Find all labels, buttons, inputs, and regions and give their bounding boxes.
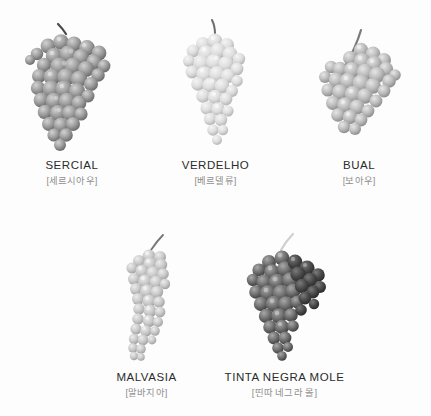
grape-cluster-tinta-negra-mole bbox=[235, 232, 335, 372]
variety-row-bottom: MALVASIA [말바지아] bbox=[0, 212, 431, 416]
variety-name-korean: [띤따 네그라 몰] bbox=[252, 389, 317, 398]
grape-variety-chart: SERCIAL [세르시아우] bbox=[0, 0, 431, 416]
variety-name: BUAL bbox=[343, 160, 375, 172]
grape-cluster-sercial-wrap bbox=[0, 0, 144, 160]
variety-name-korean: [말바지아] bbox=[126, 389, 168, 398]
grape-cluster-tinta-negra-mole-wrap bbox=[216, 212, 354, 372]
caption-verdelho: VERDELHO [베르델류] bbox=[182, 160, 250, 186]
caption-malvasia: MALVASIA [말바지아] bbox=[116, 372, 176, 398]
variety-name: TINTA NEGRA MOLE bbox=[225, 372, 345, 384]
variety-name: VERDELHO bbox=[182, 160, 250, 172]
variety-card-malvasia: MALVASIA [말바지아] bbox=[78, 212, 216, 398]
grape-cluster-verdelho-wrap bbox=[144, 0, 288, 160]
variety-card-tinta-negra-mole: TINTA NEGRA MOLE [띤따 네그라 몰] bbox=[216, 212, 354, 398]
caption-sercial: SERCIAL [세르시아우] bbox=[45, 160, 98, 186]
variety-card-sercial: SERCIAL [세르시아우] bbox=[0, 0, 144, 186]
grape-cluster-bual bbox=[309, 22, 409, 160]
caption-bual: BUAL [보아우] bbox=[343, 160, 376, 186]
variety-name-korean: [보아우] bbox=[343, 177, 376, 186]
grape-cluster-malvasia-wrap bbox=[78, 212, 216, 372]
grape-cluster-verdelho bbox=[170, 18, 262, 160]
variety-row-top: SERCIAL [세르시아우] bbox=[0, 0, 431, 208]
grape-cluster-malvasia bbox=[107, 232, 187, 372]
grape-cluster-sercial bbox=[18, 20, 126, 160]
variety-card-verdelho: VERDELHO [베르델류] bbox=[144, 0, 288, 186]
variety-name: SERCIAL bbox=[45, 160, 98, 172]
variety-card-bual: BUAL [보아우] bbox=[287, 0, 431, 186]
variety-name-korean: [베르델류] bbox=[195, 177, 237, 186]
variety-name-korean: [세르시아우] bbox=[46, 177, 97, 186]
variety-name: MALVASIA bbox=[116, 372, 176, 384]
caption-tinta-negra-mole: TINTA NEGRA MOLE [띤따 네그라 몰] bbox=[225, 372, 345, 398]
grape-cluster-bual-wrap bbox=[287, 0, 431, 160]
